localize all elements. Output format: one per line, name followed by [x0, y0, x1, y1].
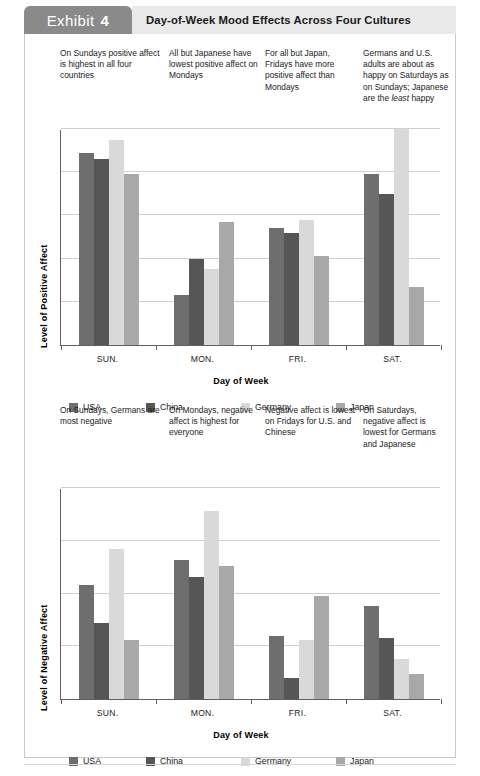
exhibit-label: Exhibit: [47, 12, 95, 29]
bar-china-mon: [189, 577, 204, 699]
bar-china-fri: [284, 233, 299, 345]
annotation-fri-positive: For all but Japan, Fridays have more pos…: [265, 48, 363, 104]
bar-china-sat: [379, 638, 394, 699]
y-axis-label-positive: Level of Positive Affect: [39, 245, 49, 349]
x-tick-label: FRI.: [250, 708, 345, 718]
bar-japan-mon: [219, 222, 234, 345]
bar-china-fri: [284, 678, 299, 699]
bar-china-sun: [94, 623, 109, 699]
page-title: Day-of-Week Mood Effects Across Four Cul…: [146, 14, 411, 26]
bar-china-sun: [94, 159, 109, 345]
annotation-sun-positive: On Sundays positive affect is highest in…: [60, 48, 169, 104]
bar-japan-sat: [409, 287, 424, 345]
bar-germany-fri: [299, 640, 314, 699]
bar-japan-fri: [314, 256, 329, 345]
exhibit-header: Exhibit 4 Day-of-Week Mood Effects Acros…: [0, 6, 480, 34]
x-axis-tick: [441, 345, 442, 350]
y-axis-label-negative: Level of Negative Affect: [39, 605, 49, 712]
bar-germany-sat: [394, 129, 409, 345]
annotation-sun-negative: On Sundays, Germans are most negative: [60, 405, 169, 450]
x-tick-label: SAT.: [345, 708, 440, 718]
bar-japan-mon: [219, 566, 234, 699]
bar-usa-sat: [364, 174, 379, 345]
x-axis-tick: [441, 699, 442, 704]
bar-germany-sat: [394, 659, 409, 699]
bar-group: [174, 130, 234, 345]
footer-divider: [24, 764, 456, 765]
bar-usa-sun: [79, 585, 94, 699]
bar-group: [269, 489, 329, 699]
x-axis-title-positive: Day of Week: [25, 376, 457, 386]
bar-japan-sun: [124, 174, 139, 345]
x-tick-label: SAT.: [345, 354, 440, 364]
gridline: [61, 128, 440, 129]
bar-germany-fri: [299, 220, 314, 345]
bar-usa-mon: [174, 560, 189, 699]
bar-japan-sun: [124, 640, 139, 699]
bar-china-mon: [189, 259, 204, 345]
exhibit-tab: Exhibit 4: [24, 6, 132, 34]
bar-germany-sun: [109, 140, 124, 345]
bar-usa-sun: [79, 153, 94, 345]
bar-china-sat: [379, 194, 394, 345]
x-axis-title-negative: Day of Week: [25, 730, 457, 740]
x-axis-tick: [251, 345, 252, 350]
bar-usa-fri: [269, 636, 284, 699]
bar-group: [364, 130, 424, 345]
x-tick-label: FRI.: [250, 354, 345, 364]
bar-group: [79, 130, 139, 345]
bar-group: [174, 489, 234, 699]
bar-group: [269, 130, 329, 345]
annotations-negative: On Sundays, Germans are most negative On…: [25, 405, 457, 450]
bar-usa-sat: [364, 606, 379, 699]
plot-area-positive: [60, 130, 440, 346]
exhibit-title-bar: Day-of-Week Mood Effects Across Four Cul…: [132, 6, 456, 34]
x-tick-label: SUN.: [60, 354, 155, 364]
exhibit-body: On Sundays positive affect is highest in…: [24, 34, 456, 758]
x-axis-tick: [61, 345, 62, 350]
annotations-positive: On Sundays positive affect is highest in…: [25, 48, 457, 104]
x-axis-tick: [251, 699, 252, 704]
x-axis-tick: [346, 345, 347, 350]
exhibit-page: Exhibit 4 Day-of-Week Mood Effects Acros…: [0, 0, 480, 776]
bar-germany-mon: [204, 269, 219, 345]
x-tick-label: SUN.: [60, 708, 155, 718]
annotation-sat-positive: Germans and U.S. adults are about as hap…: [363, 48, 457, 104]
bar-germany-mon: [204, 511, 219, 699]
bar-japan-fri: [314, 596, 329, 699]
exhibit-number: 4: [101, 12, 110, 29]
x-tick-label: MON.: [155, 708, 250, 718]
annotation-sat-negative: On Saturdays, negative affect is lowest …: [363, 405, 457, 450]
x-tick-label: MON.: [155, 354, 250, 364]
annotation-mon-negative: On Mondays, negative affect is highest f…: [169, 405, 265, 450]
bar-germany-sun: [109, 549, 124, 699]
x-axis-tick: [61, 699, 62, 704]
bar-group: [79, 489, 139, 699]
bar-usa-mon: [174, 295, 189, 345]
bar-japan-sat: [409, 674, 424, 699]
annotation-mon-positive: All but Japanese have lowest positive af…: [169, 48, 265, 104]
gridline: [61, 487, 440, 488]
bar-usa-fri: [269, 228, 284, 345]
annotation-fri-negative: Negative affect is lowest on Fridays for…: [265, 405, 363, 450]
x-axis-tick: [156, 699, 157, 704]
x-axis-tick: [156, 345, 157, 350]
plot-area-negative: [60, 489, 440, 700]
x-axis-tick: [346, 699, 347, 704]
bar-group: [364, 489, 424, 699]
